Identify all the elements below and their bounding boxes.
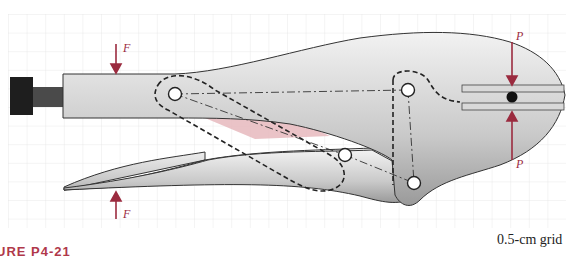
grid-scale-label: 0.5-cm grid [497,232,562,248]
pivot-pin-2 [402,84,415,97]
lower-jaw-plate [462,103,564,110]
adjusting-screw [33,87,63,107]
adjusting-knob [10,77,33,115]
workpiece [507,92,518,103]
pivot-pin-3 [339,149,352,162]
force-label-bottom-jaw: P [515,157,524,171]
figure-caption: URE P4-21 [0,244,71,259]
upper-jaw-plate [462,85,564,92]
pivot-pin-1 [169,88,182,101]
force-label-top-handle: F [122,41,131,55]
force-label-top-jaw: P [515,29,524,43]
pivot-pin-4 [408,177,421,190]
force-label-bottom-handle: F [122,207,131,221]
